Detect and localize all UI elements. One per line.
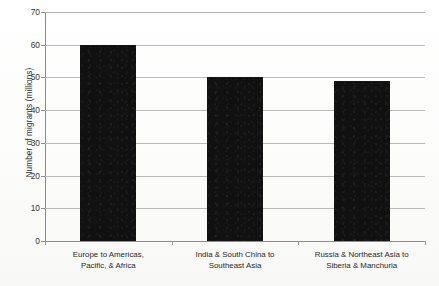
category-tick-1	[172, 241, 173, 245]
category-label-2-line-2: Southeast Asia	[172, 261, 299, 272]
category-axis-labels: Europe to Americas,Pacific, & AfricaIndi…	[45, 250, 425, 276]
y-tick-label-30: 30	[31, 138, 40, 148]
category-label-2: India & South China toSoutheast Asia	[172, 250, 299, 271]
plot-area: 706050403020100	[45, 12, 425, 241]
gridline-70: 70	[45, 12, 425, 13]
y-tick-label-50: 50	[31, 72, 40, 82]
y-tick-label-70: 70	[31, 7, 40, 17]
category-label-1-line-2: Pacific, & Africa	[45, 261, 172, 272]
y-tick-mark-10	[41, 208, 45, 209]
y-tick-mark-50	[41, 77, 45, 78]
category-label-3: Russia & Northeast Asia toSiberia & Manc…	[298, 250, 425, 271]
y-tick-label-20: 20	[31, 171, 40, 181]
bar-3	[334, 81, 390, 241]
y-tick-label-0: 0	[35, 236, 40, 246]
bar-1	[80, 45, 136, 241]
category-label-2-line-1: India & South China to	[172, 250, 299, 261]
category-tick-0	[45, 241, 46, 245]
y-tick-mark-30	[41, 143, 45, 144]
category-tick-3	[425, 241, 426, 245]
y-tick-label-40: 40	[31, 105, 40, 115]
y-tick-mark-60	[41, 45, 45, 46]
category-label-1-line-1: Europe to Americas,	[45, 250, 172, 261]
bar-chart-figure: Number of migrants (millions) 7060504030…	[0, 0, 439, 286]
y-tick-mark-70	[41, 12, 45, 13]
category-axis-ticks	[45, 241, 425, 246]
y-tick-label-10: 10	[31, 203, 40, 213]
y-tick-label-60: 60	[31, 40, 40, 50]
category-tick-2	[298, 241, 299, 245]
category-label-3-line-1: Russia & Northeast Asia to	[298, 250, 425, 261]
bar-2	[207, 77, 263, 241]
category-label-1: Europe to Americas,Pacific, & Africa	[45, 250, 172, 271]
category-label-3-line-2: Siberia & Manchuria	[298, 261, 425, 272]
y-tick-mark-40	[41, 110, 45, 111]
y-tick-mark-20	[41, 176, 45, 177]
y-axis-line	[45, 12, 46, 241]
